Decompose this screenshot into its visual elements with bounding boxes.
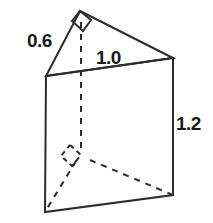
prism-figure: 0.6 1.0 1.2 — [0, 0, 213, 223]
dimension-label-top-edge: 1.0 — [96, 48, 121, 67]
dimension-label-slant-edge: 0.6 — [27, 31, 52, 50]
front-face-fill — [45, 58, 173, 212]
dimension-label-vertical-edge: 1.2 — [176, 114, 201, 133]
